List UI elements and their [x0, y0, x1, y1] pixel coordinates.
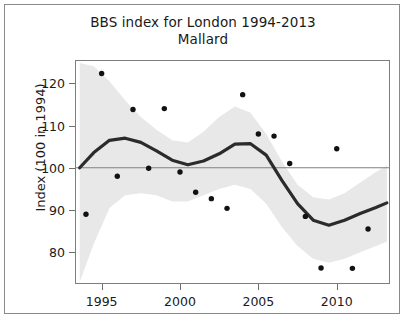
x-tick-mark [180, 284, 181, 290]
x-tick-label: 2005 [242, 294, 274, 309]
page-title: BBS index for London 1994-2013 [0, 14, 406, 31]
chart-subtitle: Mallard [0, 31, 406, 48]
y-tick-label: 80 [49, 245, 65, 260]
x-tick-mark [102, 284, 103, 290]
y-axis-label: Index (100 in 1994) [33, 38, 48, 258]
y-tick-label: 100 [41, 160, 65, 175]
y-tick-mark [69, 168, 75, 169]
y-tick-label: 120 [41, 76, 65, 91]
plot-svg [75, 60, 390, 284]
y-tick-label: 110 [41, 118, 65, 133]
y-tick-label: 90 [49, 203, 65, 218]
x-tick-label: 1995 [86, 294, 118, 309]
x-tick-label: 2010 [321, 294, 353, 309]
y-tick-mark [69, 252, 75, 253]
y-tick-mark [69, 210, 75, 211]
x-tick-mark [258, 284, 259, 290]
plot-panel: 8090100110120 1995200020052010 [75, 60, 390, 284]
x-tick-label: 2000 [164, 294, 196, 309]
y-tick-mark [69, 126, 75, 127]
title-block: BBS index for London 1994-2013 Mallard [0, 14, 406, 48]
y-tick-mark [69, 83, 75, 84]
figure-container: BBS index for London 1994-2013 Mallard I… [0, 0, 406, 319]
x-tick-mark [337, 284, 338, 290]
